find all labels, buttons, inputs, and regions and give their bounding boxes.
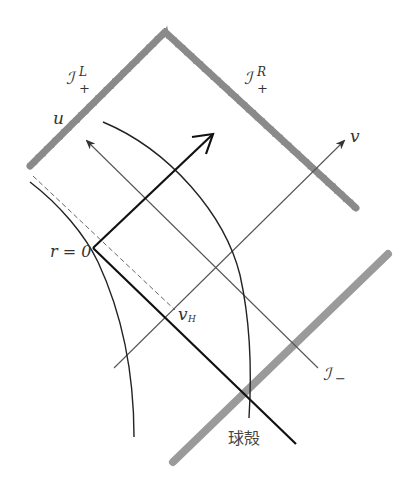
scri-plus-left-label: ℐ L + (66, 70, 74, 87)
r-zero-label: r = 0 (50, 244, 91, 260)
shell-label: 球殻 (228, 425, 260, 449)
v-axis-label: v (350, 128, 360, 145)
r-zero-curve (30, 182, 134, 437)
scri-minus-label: ℐ − (323, 366, 331, 383)
u-axis-label: u (53, 110, 64, 127)
shell-worldline-arc (103, 122, 250, 418)
scri-minus-bar (173, 254, 388, 462)
shell-line (93, 248, 296, 444)
v-horizon-label: v H (178, 306, 188, 323)
scri-plus-right-label: ℐ R + (244, 70, 252, 87)
u-axis (87, 141, 318, 368)
penrose-diagram: ℐ L + ℐ R + u v r = 0 v H ℐ − 球殻 (0, 0, 408, 484)
outgoing-ray-arrow (93, 135, 212, 248)
